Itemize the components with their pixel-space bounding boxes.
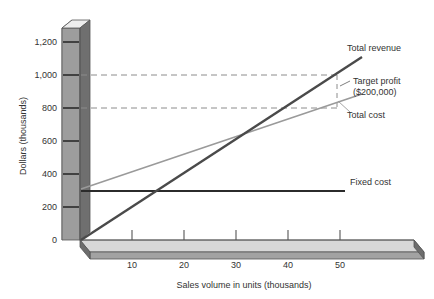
- x-axis-slab-top: [80, 240, 424, 252]
- chart-canvas: 1,200 1,000 800 600 400 200 0 Dollars (t…: [0, 0, 434, 299]
- total-cost-leader: [338, 101, 350, 112]
- x-axis-title: Sales volume in units (thousands): [176, 280, 311, 290]
- y-tick-label-1200: 1,200: [34, 37, 57, 47]
- y-tick-label-800: 800: [42, 103, 57, 113]
- x-tick-label-50: 50: [335, 260, 345, 270]
- y-axis-slab-right: [80, 20, 90, 240]
- target-profit-leader: [340, 81, 350, 86]
- x-axis-tick-labels: 10 20 30 40 50: [127, 260, 345, 270]
- y-tick-label-1000: 1,000: [34, 70, 57, 80]
- fixed-cost-label: Fixed cost: [350, 177, 392, 187]
- x-axis-ticks: [132, 230, 340, 240]
- target-profit-label-line1: Target profit: [353, 76, 401, 86]
- total-revenue-label: Total revenue: [347, 43, 401, 53]
- total-cost-label: Total cost: [347, 110, 386, 120]
- x-axis-floor-slab: [80, 240, 424, 259]
- y-tick-label-400: 400: [42, 169, 57, 179]
- x-axis-slab-face: [90, 252, 424, 259]
- target-profit-label-line2: ($200,000): [353, 87, 397, 97]
- x-tick-label-10: 10: [127, 260, 137, 270]
- y-axis-slab-face: [62, 28, 80, 240]
- y-tick-label-0: 0: [52, 235, 57, 245]
- y-tick-label-200: 200: [42, 202, 57, 212]
- cvp-chart: 1,200 1,000 800 600 400 200 0 Dollars (t…: [0, 0, 434, 299]
- y-axis-title: Dollars (thousands): [18, 97, 28, 175]
- series-total-revenue: [81, 57, 362, 240]
- y-axis-tick-labels: 1,200 1,000 800 600 400 200 0: [34, 37, 57, 245]
- x-tick-label-20: 20: [179, 260, 189, 270]
- x-tick-label-40: 40: [283, 260, 293, 270]
- y-tick-label-600: 600: [42, 136, 57, 146]
- x-tick-label-30: 30: [231, 260, 241, 270]
